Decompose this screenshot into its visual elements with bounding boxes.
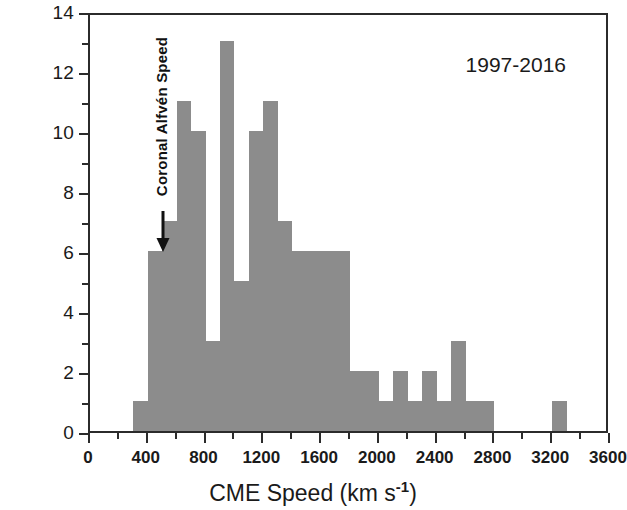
x-axis-minor-tick — [579, 433, 581, 439]
x-axis-minor-tick — [348, 433, 350, 439]
y-axis-tick-label: 8 — [63, 182, 74, 204]
x-axis-tick-label: 1200 — [242, 448, 280, 468]
histogram-bar — [393, 371, 407, 431]
y-axis-tick-label: 10 — [52, 122, 74, 144]
coronal-alfven-speed-label: Coronal Alfvén Speed — [152, 22, 169, 212]
histogram-bar — [133, 401, 147, 431]
plot-area: Coronal Alfvén Speed 1997-2016 — [88, 13, 608, 433]
histogram-bar — [336, 251, 350, 431]
x-axis-major-tick — [492, 433, 494, 443]
x-axis-title-base: CME Speed (km s — [209, 480, 396, 506]
y-axis-major-tick — [79, 433, 88, 435]
y-axis-tick-labels: 02468101214 — [0, 0, 88, 446]
y-axis-tick-label: 2 — [63, 362, 74, 384]
histogram-bar — [364, 371, 378, 431]
y-axis-major-tick — [79, 13, 88, 15]
x-axis-minor-tick — [521, 433, 523, 439]
histogram-bar — [350, 371, 364, 431]
x-axis-major-tick — [377, 433, 379, 443]
y-axis-major-tick — [79, 313, 88, 315]
histogram-bar — [191, 131, 205, 431]
x-axis-minor-tick — [232, 433, 234, 439]
y-axis-major-tick — [79, 373, 88, 375]
x-axis-tick-label: 3600 — [589, 448, 627, 468]
histogram-bar — [321, 251, 335, 431]
x-axis-title-tail: ) — [409, 480, 417, 506]
y-axis-major-tick — [79, 133, 88, 135]
x-axis-major-tick — [435, 433, 437, 443]
x-axis-minor-tick — [406, 433, 408, 439]
histogram-bar — [451, 341, 465, 431]
histogram-bar — [206, 341, 220, 431]
x-axis-major-tick — [319, 433, 321, 443]
histogram-bar — [466, 401, 480, 431]
histogram-bar — [234, 281, 248, 431]
y-axis-tick-label: 14 — [52, 2, 74, 24]
histogram-bar — [552, 401, 566, 431]
x-axis-minor-tick — [175, 433, 177, 439]
x-axis-tick-label: 2000 — [358, 448, 396, 468]
x-axis-tick-label: 2800 — [474, 448, 512, 468]
y-axis-tick-label: 12 — [52, 62, 74, 84]
x-axis-title-exponent: -1 — [396, 478, 409, 495]
y-axis-tick-label: 4 — [63, 302, 74, 324]
histogram-bar — [249, 131, 263, 431]
x-axis-major-tick — [146, 433, 148, 443]
histogram-bar — [278, 221, 292, 431]
y-axis-tick-label: 6 — [63, 242, 74, 264]
x-axis-major-tick — [204, 433, 206, 443]
x-axis-minor-tick — [290, 433, 292, 439]
x-axis-minor-tick — [117, 433, 119, 439]
coronal-alfven-speed-annotation: Coronal Alfvén Speed — [141, 33, 181, 263]
x-axis-ticks — [88, 433, 608, 445]
y-axis-tick-label: 0 — [63, 422, 74, 444]
x-axis-tick-label: 800 — [189, 448, 217, 468]
x-axis-title: CME Speed (km s-1) — [0, 478, 626, 507]
x-axis-tick-label: 0 — [83, 448, 92, 468]
histogram-bar — [307, 251, 321, 431]
x-axis-tick-label: 3200 — [531, 448, 569, 468]
histogram-bar — [408, 401, 422, 431]
x-axis-major-tick — [261, 433, 263, 443]
histogram-bar — [292, 251, 306, 431]
histogram-bar — [437, 401, 451, 431]
x-axis-tick-label: 400 — [132, 448, 160, 468]
x-axis-major-tick — [608, 433, 610, 443]
down-arrow-icon — [155, 211, 171, 253]
histogram-bar — [379, 401, 393, 431]
y-axis-major-tick — [79, 193, 88, 195]
y-axis-major-tick — [79, 253, 88, 255]
x-axis-tick-label: 1600 — [300, 448, 338, 468]
x-axis-tick-labels: 04008001200160020002400280032003600 — [0, 448, 626, 474]
histogram-bar — [263, 101, 277, 431]
histogram-bar — [220, 41, 234, 431]
date-range-label: 1997-2016 — [466, 53, 566, 77]
x-axis-major-tick — [88, 433, 90, 443]
x-axis-minor-tick — [464, 433, 466, 439]
y-axis-major-tick — [79, 73, 88, 75]
histogram-bar — [422, 371, 436, 431]
x-axis-major-tick — [550, 433, 552, 443]
histogram-bar — [480, 401, 494, 431]
histogram-bar — [148, 251, 162, 431]
x-axis-tick-label: 2400 — [416, 448, 454, 468]
